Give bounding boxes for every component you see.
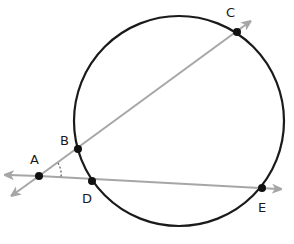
label-D: D	[82, 191, 92, 206]
line-AC-back	[14, 176, 39, 194]
label-A: A	[30, 152, 39, 167]
point-D	[88, 177, 96, 185]
point-E	[258, 184, 266, 192]
point-A	[35, 172, 43, 180]
point-B	[74, 145, 82, 153]
point-C	[233, 28, 241, 36]
circle	[74, 16, 284, 226]
label-B: B	[60, 133, 69, 148]
line-AE-back	[8, 175, 39, 176]
label-E: E	[258, 200, 266, 215]
line-AE	[39, 176, 278, 189]
label-C: C	[226, 5, 235, 20]
angle-mark-A	[58, 163, 61, 177]
line-AC	[39, 23, 248, 176]
secant-circle-diagram: A B C D E	[0, 0, 294, 244]
